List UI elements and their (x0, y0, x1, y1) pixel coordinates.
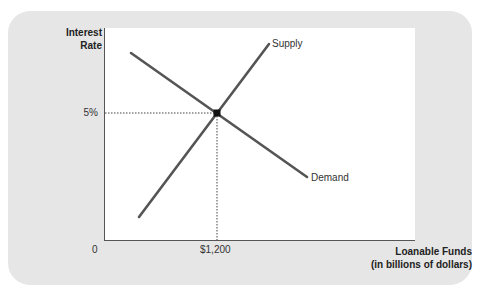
demand-label: Demand (311, 172, 349, 183)
x-axis-label-line1: Loanable Funds (300, 245, 472, 258)
equilibrium-point (214, 110, 221, 117)
y-axis-label-line2: Rate (40, 39, 102, 52)
x-tick-1200: $1,200 (200, 244, 231, 255)
supply-curve (139, 44, 269, 217)
x-axis-label-line2: (in billions of dollars) (300, 258, 472, 271)
y-axis-label: Interest Rate (40, 26, 102, 52)
supply-label: Supply (272, 38, 303, 49)
x-tick-0: 0 (92, 244, 98, 255)
y-axis-label-line1: Interest (40, 26, 102, 39)
x-axis-label: Loanable Funds (in billions of dollars) (300, 245, 472, 271)
y-tick-5pct: 5% (60, 107, 98, 118)
